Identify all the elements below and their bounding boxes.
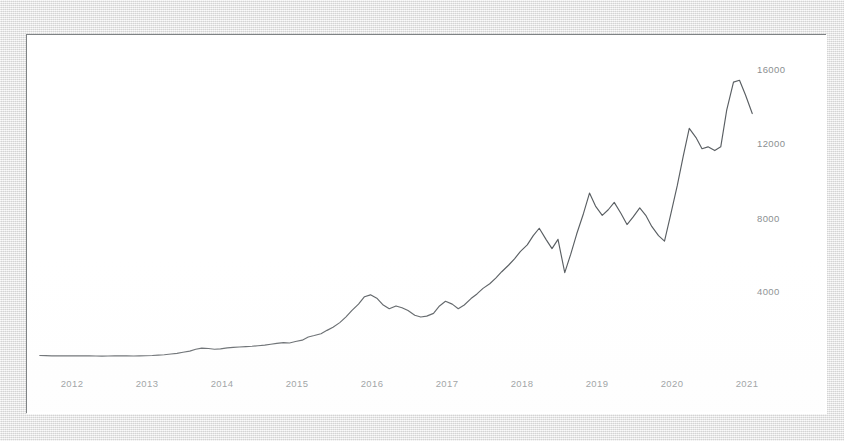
x-axis-tick-2021: 2021: [736, 378, 759, 389]
line-chart-plot[interactable]: [27, 35, 827, 414]
x-axis-tick-2017: 2017: [436, 378, 459, 389]
x-axis-tick-2012: 2012: [61, 378, 84, 389]
x-axis-tick-2019: 2019: [586, 378, 609, 389]
y-axis-tick-8000: 8000: [757, 213, 780, 224]
chart-card: 16000 12000 8000 4000 2012 2013 2014 201…: [26, 34, 826, 413]
x-axis-tick-2014: 2014: [211, 378, 234, 389]
x-axis-tick-2013: 2013: [136, 378, 159, 389]
x-axis-tick-2016: 2016: [361, 378, 384, 389]
plot-background: [27, 35, 827, 414]
y-axis-tick-4000: 4000: [757, 286, 780, 297]
x-axis-tick-2015: 2015: [286, 378, 309, 389]
y-axis-tick-12000: 12000: [757, 138, 785, 149]
x-axis-tick-2018: 2018: [511, 378, 534, 389]
y-axis-tick-16000: 16000: [757, 64, 785, 75]
x-axis-tick-2020: 2020: [661, 378, 684, 389]
